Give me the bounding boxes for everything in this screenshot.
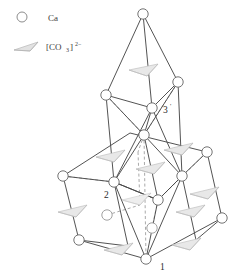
cell-edge — [106, 95, 152, 108]
cell-edge — [106, 14, 143, 95]
ca-atom-circle-icon — [147, 103, 157, 113]
box-edge — [63, 176, 114, 182]
ca-atom-circle-icon — [141, 254, 151, 264]
ca-atom-circle-icon — [102, 210, 112, 220]
legend: Ca [CO 3 ] 2− — [14, 12, 82, 53]
ca-atom-circle-icon — [177, 171, 187, 181]
box-edge — [207, 152, 222, 218]
carbonate-triangle-icon — [176, 205, 205, 217]
ca-atom-circle-icon — [101, 90, 111, 100]
ca-atom-circle-icon — [153, 195, 163, 205]
box-edge — [146, 218, 222, 259]
ca-atom-circle-icon — [17, 12, 27, 22]
ca-atom-circle-icon — [138, 9, 148, 19]
cell-edge — [114, 135, 144, 182]
carbonate-triangle-icon — [58, 205, 87, 217]
cell-edge — [106, 95, 114, 182]
ca-atom-circle-icon — [202, 147, 212, 157]
carbonate-triangle-icon — [129, 64, 158, 76]
ca-atom-circle-icon — [173, 77, 183, 87]
ca-atom-circle-icon — [74, 235, 84, 245]
ca-atom-circle-icon — [147, 223, 157, 233]
legend-item-ca: Ca — [17, 12, 58, 23]
crystal-structure-diagram: Ca [CO 3 ] 2− — [0, 0, 239, 279]
legend-item-carbonate: [CO 3 ] 2− — [14, 41, 82, 53]
ca-atom-circle-icon — [109, 177, 119, 187]
carbonate-triangle-icon — [190, 187, 219, 199]
ca-atom-circle-icon — [139, 130, 149, 140]
legend-label-carbonate-sup: 2− — [75, 41, 82, 47]
ca-atom-circle-icon — [58, 171, 68, 181]
carbonate-triangle-icon — [14, 42, 38, 51]
box-edge — [114, 182, 128, 246]
carbonate-triangle-icon — [122, 193, 151, 205]
cell-edge — [178, 82, 182, 176]
vertex-label-3-prime: ' — [170, 102, 171, 110]
legend-label-ca: Ca — [48, 13, 58, 23]
vertex-label-3: 3 — [163, 105, 168, 115]
vertex-label-2: 2 — [104, 190, 109, 200]
ca-atoms — [58, 9, 227, 264]
ca-atom-circle-icon — [217, 213, 227, 223]
legend-label-carbonate-open: [CO — [46, 42, 62, 52]
box-edge — [79, 240, 128, 246]
vertex-label-1: 1 — [160, 262, 165, 272]
legend-label-carbonate-close: ] — [70, 42, 73, 52]
cell-edge — [106, 95, 144, 135]
legend-label-carbonate-sub: 3 — [66, 47, 69, 53]
carbonate-triangle-icon — [172, 238, 201, 250]
figure-container: Ca [CO 3 ] 2− — [0, 0, 239, 279]
